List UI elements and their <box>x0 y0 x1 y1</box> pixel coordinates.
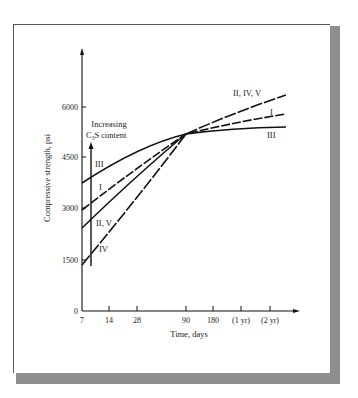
y-axis-title: Compressive strength, psi <box>42 133 52 222</box>
x-tick-180: 180 <box>207 316 219 325</box>
y-tick-4500: 4500 <box>62 153 78 162</box>
y-tick-0: 0 <box>74 307 78 316</box>
arrow-head-icon <box>89 142 94 149</box>
y-tick-6000: 6000 <box>62 103 78 112</box>
x-tick-7: 7 <box>80 316 84 325</box>
y-axis-arrow-icon <box>80 48 84 55</box>
annotation-line2: C3S content <box>86 130 127 141</box>
label-III-left: III <box>95 159 104 169</box>
annotation-line1: Increasing <box>91 119 127 129</box>
chart: 0 1500 3000 4500 6000 7 14 28 90 180 (1 … <box>0 0 358 398</box>
label-I-right: I <box>270 107 273 117</box>
label-IV-left: IV <box>99 244 109 254</box>
label-II-V-left: II, V <box>96 218 113 228</box>
y-tick-1500: 1500 <box>62 256 78 265</box>
label-III-right: III <box>267 130 276 140</box>
x-tick-2yr: (2 yr) <box>261 316 279 325</box>
axes <box>82 52 296 311</box>
label-I-left: I <box>99 182 102 192</box>
x-axis-title: Time, days <box>170 329 207 339</box>
label-II-IV-V-right: II, IV, V <box>233 88 262 98</box>
x-tick-1yr: (1 yr) <box>232 316 250 325</box>
x-ticks <box>109 306 270 311</box>
y-tick-3000: 3000 <box>62 204 78 213</box>
curve-II-V <box>82 134 186 228</box>
x-tick-14: 14 <box>105 316 113 325</box>
x-axis-arrow-icon <box>293 309 300 313</box>
x-tick-28: 28 <box>133 316 141 325</box>
x-tick-90: 90 <box>182 316 190 325</box>
